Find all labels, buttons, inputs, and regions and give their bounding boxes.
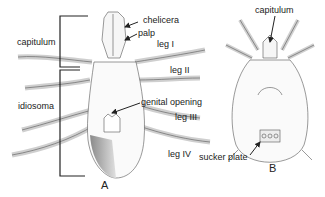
label-chelicera: chelicera [143,16,179,25]
capitulum-a [102,12,126,58]
label-capitulum-b: capitulum [255,6,294,15]
label-leg-3: leg III [175,113,197,122]
label-sucker-plate: sucker plate [199,153,248,162]
label-leg-1: leg I [157,40,174,49]
mite-anatomy-figure: chelicera palp capitulum leg I leg II id… [0,0,325,197]
panel-label-b: B [269,163,276,174]
idiosoma-b [232,60,308,162]
label-idiosoma: idiosoma [18,102,54,111]
label-leg-4: leg IV [168,150,191,159]
body-region-bracket [60,16,88,176]
label-leg-2: leg II [170,66,190,75]
sucker-plate [260,130,280,142]
legs-right [135,50,210,142]
label-palp: palp [138,29,155,38]
panel-label-a: A [101,180,108,191]
label-capitulum-a: capitulum [17,38,56,47]
label-genital-opening: genital opening [141,98,202,107]
